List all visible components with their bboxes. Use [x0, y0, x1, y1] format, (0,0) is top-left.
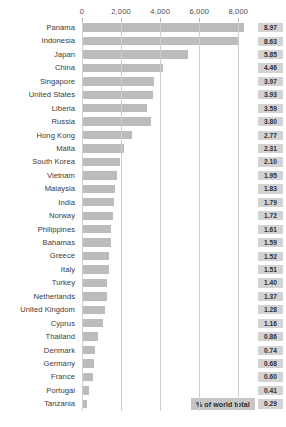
bar-row: Denmark0.74	[0, 344, 286, 357]
category-label: Netherlands	[0, 290, 75, 303]
gridline	[199, 21, 200, 411]
category-label: India	[0, 196, 75, 209]
value-badge: 8.97	[258, 23, 283, 32]
category-label: Liberia	[0, 102, 75, 115]
value-badge: 8.63	[258, 37, 283, 46]
value-badge: 3.59	[258, 104, 283, 113]
bar-row: Turkey1.40	[0, 276, 286, 289]
value-badge: 0.29	[258, 399, 283, 408]
category-label: Cyprus	[0, 317, 75, 330]
value-badge: 3.93	[258, 90, 283, 99]
category-label: Japan	[0, 48, 75, 61]
value-badge: 1.95	[258, 171, 283, 180]
bar	[82, 158, 120, 166]
value-badge: 2.31	[258, 144, 283, 153]
bar	[82, 225, 111, 233]
category-label: Philippines	[0, 223, 75, 236]
category-label: Portugal	[0, 384, 75, 397]
value-badge: 1.83	[258, 184, 283, 193]
bar-row: Liberia3.59	[0, 102, 286, 115]
bar-row: France0.60	[0, 370, 286, 383]
bar-row: China4.46	[0, 61, 286, 74]
value-badge: 1.72	[258, 211, 283, 220]
gridline	[238, 21, 239, 411]
value-badge: 1.37	[258, 292, 283, 301]
category-label: Tanzania	[0, 397, 75, 410]
value-badge: 3.97	[258, 77, 283, 86]
bar-row: Panama8.97	[0, 21, 286, 34]
bar-row: United Kingdom1.28	[0, 303, 286, 316]
bar-row: Russia3.80	[0, 115, 286, 128]
bar	[82, 252, 109, 260]
bar	[82, 50, 188, 58]
bar	[82, 386, 89, 394]
bar-row: Portugal0.41	[0, 384, 286, 397]
bar-row: Japan5.85	[0, 48, 286, 61]
x-tick-label: 2,000	[111, 7, 131, 16]
category-label: Thailand	[0, 330, 75, 343]
bar	[82, 171, 117, 179]
bar	[82, 346, 95, 354]
bar-row: Vietnam1.95	[0, 169, 286, 182]
gridline	[82, 21, 83, 411]
category-label: Panama	[0, 21, 75, 34]
category-label: Bahamas	[0, 236, 75, 249]
category-label: Hong Kong	[0, 129, 75, 142]
bar	[82, 332, 98, 340]
gridline	[160, 21, 161, 411]
bar-row: Germany0.68	[0, 357, 286, 370]
bar-row: Singapore3.97	[0, 75, 286, 88]
bar	[82, 185, 115, 193]
chart-rows: Panama8.97Indonesia8.63Japan5.85China4.4…	[0, 21, 286, 411]
bar-row: Malaysia1.83	[0, 182, 286, 195]
category-label: United Kingdom	[0, 303, 75, 316]
bar-row: Indonesia8.63	[0, 34, 286, 47]
category-label: Denmark	[0, 344, 75, 357]
value-badge: 1.61	[258, 225, 283, 234]
bar-row: Hong Kong2.77	[0, 129, 286, 142]
bar-row: Thailand0.86	[0, 330, 286, 343]
bar-row: United States3.93	[0, 88, 286, 101]
value-badge: 1.28	[258, 305, 283, 314]
legend-badge: % of world total	[191, 398, 255, 410]
bar	[82, 144, 124, 152]
bar	[82, 238, 111, 246]
category-label: Indonesia	[0, 34, 75, 47]
bar-row: Bahamas1.59	[0, 236, 286, 249]
category-label: Russia	[0, 115, 75, 128]
x-tick-label: 6,000	[189, 7, 209, 16]
bar-row: Italy1.51	[0, 263, 286, 276]
bar	[82, 212, 113, 220]
value-badge: 1.40	[258, 278, 283, 287]
value-badge: 0.74	[258, 346, 283, 355]
value-badge: 2.10	[258, 157, 283, 166]
value-badge: 5.85	[258, 50, 283, 59]
category-label: Singapore	[0, 75, 75, 88]
x-tick-label: 4,000	[150, 7, 170, 16]
x-tick-label: 8,000	[228, 7, 248, 16]
bar	[82, 131, 132, 139]
bar	[82, 359, 94, 367]
category-label: Turkey	[0, 276, 75, 289]
bar	[82, 77, 154, 85]
bar	[82, 198, 114, 206]
value-badge: 0.60	[258, 372, 283, 381]
value-badge: 1.16	[258, 319, 283, 328]
value-badge: 1.59	[258, 238, 283, 247]
bar	[82, 265, 109, 273]
bar	[82, 23, 244, 31]
category-label: China	[0, 61, 75, 74]
value-badge: 1.52	[258, 252, 283, 261]
category-label: Germany	[0, 357, 75, 370]
bar	[82, 306, 105, 314]
value-badge: 0.41	[258, 386, 283, 395]
bar	[82, 64, 163, 72]
bar	[82, 373, 93, 381]
bar-row: Philippines1.61	[0, 223, 286, 236]
clipped-header-text	[8, 0, 188, 6]
value-badge: 1.51	[258, 265, 283, 274]
bar	[82, 91, 153, 99]
value-badge: 2.77	[258, 131, 283, 140]
category-label: Malaysia	[0, 182, 75, 195]
category-label: United States	[0, 88, 75, 101]
